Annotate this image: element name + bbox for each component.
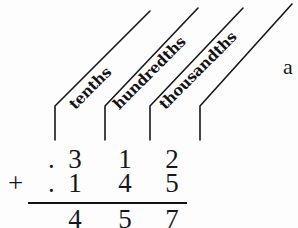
- plus-sign: +: [8, 170, 23, 197]
- addend-2-digit-thousandths: 5: [161, 170, 183, 197]
- place-value-addition-figure: tenths hundredths thousandths . 3 1 2 + …: [0, 0, 298, 228]
- sum-digit-tenths: 4: [64, 206, 86, 228]
- addend-2-digit-tenths: 1: [64, 170, 86, 197]
- addend-2-digit-hundredths: 4: [114, 170, 136, 197]
- margin-note-letter: a: [283, 56, 293, 78]
- sum-digit-thousandths: 7: [161, 206, 183, 228]
- addend-2-decimal-point: .: [48, 170, 55, 197]
- sum-digit-hundredths: 5: [114, 206, 136, 228]
- sum-rule: [28, 202, 187, 204]
- addition-problem: . 3 1 2 + . 1 4 5 4 5 7: [0, 0, 298, 228]
